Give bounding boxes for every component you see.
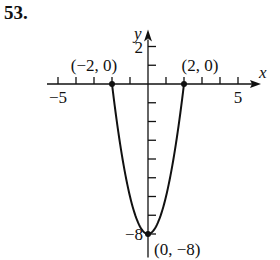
- x-tick-label: 5: [234, 88, 243, 107]
- data-point: [145, 231, 151, 237]
- y-tick-label: 2: [135, 38, 144, 57]
- data-point: [181, 81, 187, 87]
- point-label: (2, 0): [182, 56, 219, 75]
- x-axis-label: x: [258, 63, 267, 82]
- point-label: (0, −8): [154, 240, 200, 259]
- x-tick-label: −5: [49, 88, 67, 107]
- point-label: (−2, 0): [71, 56, 117, 75]
- data-point: [109, 81, 115, 87]
- parabola-graph: xy−552−8(−2, 0)(2, 0)(0, −8): [0, 0, 280, 260]
